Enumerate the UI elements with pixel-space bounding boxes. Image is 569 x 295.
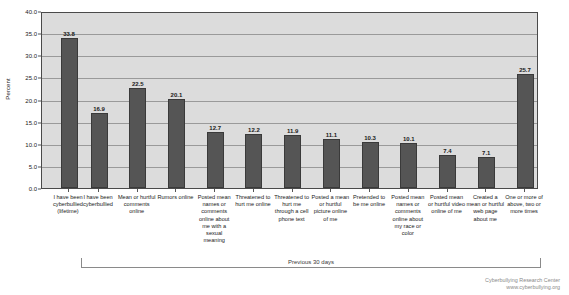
bar-slot: 25.7 xyxy=(517,13,534,188)
x-axis-tick-mark xyxy=(68,189,69,192)
x-axis-tick-mark xyxy=(292,189,293,192)
bar-slot: 10.1 xyxy=(400,13,417,188)
x-axis-category-label: Posted mean or hurtful video online of m… xyxy=(428,194,466,216)
bar-slot: 22.5 xyxy=(129,13,146,188)
bar-slot: 20.1 xyxy=(168,13,185,188)
bar xyxy=(478,157,495,188)
x-axis-tick-mark xyxy=(485,189,486,192)
credit-organization: Cyberbullying Research Center xyxy=(485,277,560,284)
x-axis-tick-mark xyxy=(253,189,254,192)
bar-value-label: 12.2 xyxy=(248,127,260,133)
bar xyxy=(400,143,417,188)
x-axis-tick-mark xyxy=(369,189,370,192)
x-axis-category-label: Pretended to be me online xyxy=(350,194,388,208)
credit-block: Cyberbullying Research Center www.cyberb… xyxy=(485,277,560,291)
x-axis-category-label: Created a mean or hurtful web page about… xyxy=(466,194,504,223)
bar-slot: 7.4 xyxy=(439,13,456,188)
credit-website: www.cyberbullying.org xyxy=(485,284,560,291)
x-axis-category-label: Posted mean names or comments online abo… xyxy=(195,194,233,244)
bar xyxy=(439,155,456,188)
previous-30-days-bracket: Previous 30 days xyxy=(81,258,541,270)
bar-slot: 11.1 xyxy=(323,13,340,188)
bar-value-label: 22.5 xyxy=(132,81,144,87)
x-axis-tick-mark xyxy=(524,189,525,192)
x-axis-category-labels: I have been cyberbullied (lifetime)I hav… xyxy=(41,194,538,256)
y-axis-tick-labels: 0.05.010.015.020.025.030.035.040.0 xyxy=(0,0,40,295)
y-axis-tick-label: 0.0 xyxy=(29,186,37,192)
bar-value-label: 33.8 xyxy=(63,31,75,37)
bar-slot: 12.7 xyxy=(207,13,224,188)
bar-value-label: 10.1 xyxy=(403,136,415,142)
bracket-left-cap xyxy=(81,258,82,268)
x-axis-category-label: One or more of above, two or more times xyxy=(505,194,543,216)
x-axis-tick-mark xyxy=(214,189,215,192)
bar-value-label: 16.9 xyxy=(93,106,105,112)
bracket-right-cap xyxy=(540,258,541,268)
bar xyxy=(517,74,534,188)
bar-slot: 11.9 xyxy=(284,13,301,188)
bar xyxy=(168,99,185,188)
bar-series: 33.816.922.520.112.712.211.911.110.310.1… xyxy=(42,13,537,188)
bar xyxy=(207,132,224,188)
bar-value-label: 7.4 xyxy=(443,148,451,154)
bar xyxy=(323,139,340,188)
bar-value-label: 12.7 xyxy=(209,125,221,131)
bar xyxy=(129,88,146,188)
x-axis-category-label: Posted mean names or comments online abo… xyxy=(389,194,427,237)
y-axis-tick-label: 25.0 xyxy=(25,75,37,81)
bar xyxy=(362,142,379,188)
bar-value-label: 11.1 xyxy=(326,132,337,138)
y-axis-tick-label: 10.0 xyxy=(25,142,37,148)
bar-slot: 12.2 xyxy=(245,13,262,188)
x-axis-tick-mark xyxy=(447,189,448,192)
bar-slot: 7.1 xyxy=(478,13,495,188)
x-axis-category-label: I have been cyberbullied xyxy=(79,194,117,208)
y-axis-tick-label: 15.0 xyxy=(25,120,37,126)
bar xyxy=(284,135,301,188)
x-axis-category-label: Threatened to hurt me online xyxy=(234,194,272,208)
y-axis-tick-label: 5.0 xyxy=(29,164,37,170)
bar xyxy=(61,38,78,188)
y-axis-tick-label: 40.0 xyxy=(25,9,37,15)
x-axis-category-label: Rumors online xyxy=(156,194,194,201)
bracket-label: Previous 30 days xyxy=(284,259,338,265)
bar-chart-figure: Percent 0.05.010.015.020.025.030.035.040… xyxy=(0,0,569,295)
y-axis-tick-label: 20.0 xyxy=(25,98,37,104)
x-axis-tick-marks xyxy=(41,189,538,193)
x-axis-category-label: Threatened to hurt me through a cell pho… xyxy=(273,194,311,223)
bar-value-label: 11.9 xyxy=(287,128,298,134)
bar-slot: 33.8 xyxy=(61,13,78,188)
x-axis-tick-mark xyxy=(408,189,409,192)
bar-value-label: 10.3 xyxy=(364,135,376,141)
x-axis-tick-mark xyxy=(98,189,99,192)
x-axis-tick-mark xyxy=(330,189,331,192)
bar-value-label: 25.7 xyxy=(519,67,531,73)
x-axis-tick-mark xyxy=(175,189,176,192)
x-axis-category-label: Mean or hurtful comments online xyxy=(118,194,156,216)
x-axis-category-label: Posted a mean or hurtful picture online … xyxy=(311,194,349,223)
x-axis-tick-mark xyxy=(137,189,138,192)
bar-value-label: 7.1 xyxy=(482,150,490,156)
bar xyxy=(91,113,108,188)
bar-slot: 10.3 xyxy=(362,13,379,188)
bar xyxy=(245,134,262,188)
y-axis-tick-label: 30.0 xyxy=(25,53,37,59)
bar-slot: 16.9 xyxy=(91,13,108,188)
bar-value-label: 20.1 xyxy=(171,92,183,98)
y-axis-tick-label: 35.0 xyxy=(25,31,37,37)
bracket-line xyxy=(81,267,541,268)
plot-area: 33.816.922.520.112.712.211.911.110.310.1… xyxy=(41,12,538,189)
